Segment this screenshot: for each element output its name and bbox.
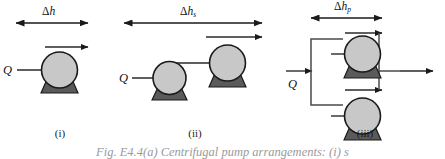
panel-ii-pump-2	[209, 45, 246, 87]
panel-i-pump-1	[41, 52, 78, 93]
panel-ii-head-label: Δhs	[180, 6, 196, 19]
panel-label-iii: (iii)	[345, 128, 385, 139]
panel-iii-inlet-manifold-pipe	[311, 39, 343, 105]
figure-caption: Fig. E4.4(a) Centrifugal pump arrangemen…	[0, 146, 445, 159]
panel-label-ii: (ii)	[175, 128, 215, 139]
panel-iii-head-label: Δhp	[334, 1, 351, 14]
panel-i-head-label: Δh	[42, 6, 55, 18]
panel-i-single-pump	[16, 23, 88, 93]
panel-ii-inlet-label: Q	[119, 72, 128, 85]
panel-iii-discharge-manifold-pipe	[379, 33, 400, 90]
panel-iii-inlet-label: Q	[288, 78, 297, 91]
panel-i-inlet-label: Q	[3, 64, 12, 77]
panel-ii-series-pumps	[124, 23, 262, 100]
panel-i-head-var: h	[49, 5, 55, 17]
panel-ii-pump-1	[152, 62, 187, 101]
panel-iii-pump-1	[344, 36, 381, 78]
panel-label-i: (i)	[40, 128, 80, 139]
panel-iii-parallel-pumps	[286, 18, 433, 140]
panel-ii-head-sub: s	[193, 10, 196, 19]
figure-centrifugal-pump-arrangements: Δh Δhs Δhp Q Q Q (i) (ii) (iii) Fig. E4.…	[0, 0, 445, 159]
panel-iii-head-sub: p	[347, 5, 351, 14]
